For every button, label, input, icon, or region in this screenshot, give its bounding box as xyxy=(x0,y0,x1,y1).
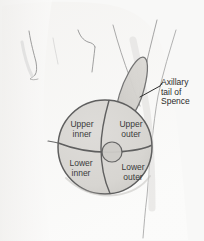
quadrant-label-upper-outer: Upper outer xyxy=(110,120,152,139)
quadrant-label-line2: outer xyxy=(112,173,154,183)
quadrant-label-lower-inner: Lower inner xyxy=(60,159,102,178)
breast-quadrants-figure: Upper inner Upper outer Lower inner Lowe… xyxy=(0,0,204,241)
quadrant-label-lower-outer: Lower outer xyxy=(112,163,154,182)
callout-label-axillary-tail-of-spence: Axillary tail of Spence xyxy=(161,78,204,107)
quadrant-label-line2: inner xyxy=(61,130,103,140)
quadrant-label-upper-inner: Upper inner xyxy=(61,120,103,139)
callout-line3: Spence xyxy=(161,97,204,107)
quadrant-label-line2: inner xyxy=(60,169,102,179)
quadrant-label-line2: outer xyxy=(110,130,152,140)
nipple-areola-circle xyxy=(102,142,122,162)
